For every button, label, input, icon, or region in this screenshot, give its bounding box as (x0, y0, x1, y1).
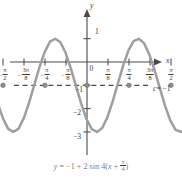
tick-fraction: π8 (65, 67, 70, 81)
marked-point-2 (85, 83, 89, 87)
y-axis (84, 9, 91, 155)
x-tick-label-2: −π4 (41, 68, 50, 82)
y-tick-label-minus-2: −2 (73, 108, 81, 117)
y-tick-label-minus-1: −1 (75, 85, 83, 94)
equation-frac-den: 4 (120, 165, 125, 172)
equation-y: y (54, 162, 58, 171)
x-tick-label-5: π4 (126, 68, 131, 82)
equation-paren-close: ) (126, 162, 129, 171)
midline-label: c= −1 (153, 84, 171, 93)
y-tick-label-1: 1 (95, 27, 99, 36)
tick-fraction: π8 (105, 67, 110, 81)
tick-num: π (65, 67, 70, 74)
tick-num: π (126, 67, 131, 74)
equation-body: = −1 + 2 sin 4 (59, 162, 105, 171)
tick-den: 8 (146, 74, 154, 82)
tick-num: π (168, 67, 173, 74)
x-tick-label-7: π2 (168, 68, 173, 82)
y-tick-label-minus-3: −3 (73, 132, 81, 141)
equation-caption: y = −1 + 2 sin 4(x + π4) (0, 160, 182, 174)
x-axis-arrowhead (154, 59, 162, 66)
tick-den: 8 (65, 74, 70, 82)
tick-num: π (2, 67, 7, 74)
origin-label: 0 (90, 64, 94, 73)
equation-plus: + (112, 162, 121, 171)
tick-num: π (44, 67, 49, 74)
figure-graph-sine: 1 −1 −2 −3 0 x y c= −1 −π2−3π8−π4−π8π8π4… (0, 0, 182, 180)
tick-fraction: 3π8 (146, 67, 154, 81)
y-axis-arrowhead (84, 9, 91, 17)
marked-point-3 (127, 83, 131, 87)
x-tick-label-0: −π2 (0, 68, 7, 82)
tick-num: π (105, 67, 110, 74)
equation-fraction-pi-over-4: π4 (120, 159, 125, 173)
tick-num: 3π (22, 67, 30, 74)
x-tick-label-3: −π8 (62, 68, 71, 82)
tick-fraction: π4 (126, 67, 131, 81)
tick-den: 8 (105, 74, 110, 82)
tick-fraction: 3π8 (22, 67, 30, 81)
x-axis (10, 59, 162, 66)
tick-fraction: π2 (2, 67, 7, 81)
x-tick-label-6: 3π8 (146, 68, 154, 82)
tick-fraction: π4 (44, 67, 49, 81)
tick-den: 2 (2, 74, 7, 82)
tick-den: 4 (44, 74, 49, 82)
x-axis-label: x (166, 56, 169, 65)
tick-den: 4 (126, 74, 131, 82)
tick-num: 3π (146, 67, 154, 74)
x-tick-label-4: π8 (105, 68, 110, 82)
y-axis-label: y (90, 1, 93, 10)
x-tick-label-1: −3π8 (18, 68, 30, 82)
midline-label-value: = −1 (156, 84, 170, 93)
marked-point-0 (1, 83, 5, 87)
tick-den: 8 (22, 74, 30, 82)
tick-den: 2 (168, 74, 173, 82)
marked-point-1 (43, 83, 47, 87)
tick-fraction: π2 (168, 67, 173, 81)
